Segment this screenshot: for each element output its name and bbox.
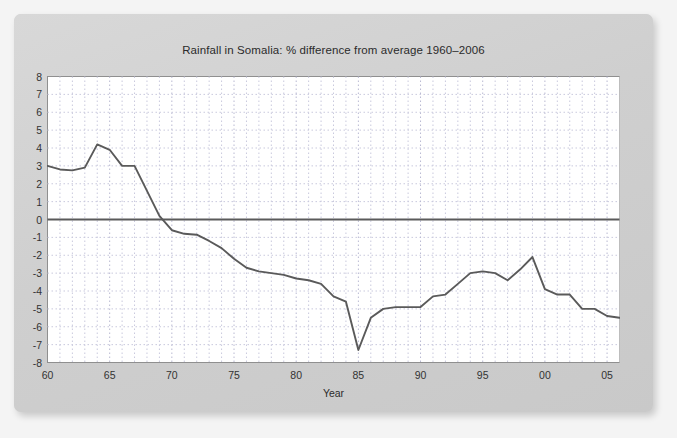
x-tick-label: 70 (166, 369, 178, 381)
page-root: Rainfall in Somalia: % difference from a… (0, 0, 677, 438)
y-tick-label: 0 (36, 214, 42, 226)
x-tick-label: 90 (415, 369, 427, 381)
x-tick-label: 95 (477, 369, 489, 381)
chart-svg (47, 76, 620, 363)
y-tick-label: -6 (33, 321, 42, 333)
x-tick-label: 75 (228, 369, 240, 381)
series-line (48, 144, 620, 350)
x-tick-label: 05 (601, 369, 613, 381)
x-tick-label: 80 (290, 369, 302, 381)
y-tick-label: -8 (33, 357, 42, 369)
chart-title: Rainfall in Somalia: % difference from a… (14, 44, 653, 56)
y-tick-label: 4 (36, 142, 42, 154)
data-series-line (48, 144, 620, 350)
y-tick-label: -1 (33, 231, 42, 243)
x-tick-label: 60 (42, 369, 54, 381)
y-tick-label: 2 (36, 178, 42, 190)
y-tick-label: 5 (36, 124, 42, 136)
y-tick-label: -5 (33, 303, 42, 315)
plot-wrapper: 876543210-1-2-3-4-5-6-7-8 60657075808590… (47, 76, 620, 363)
x-tick-label: 65 (104, 369, 116, 381)
y-tick-label: 3 (36, 160, 42, 172)
y-tick-label: 7 (36, 88, 42, 100)
y-tick-label: 1 (36, 196, 42, 208)
y-tick-label: -3 (33, 267, 42, 279)
y-tick-label: 6 (36, 106, 42, 118)
y-tick-label: -4 (33, 285, 42, 297)
x-tick-label: 00 (539, 369, 551, 381)
y-tick-label: 8 (36, 71, 42, 83)
x-axis-title: Year (47, 387, 620, 399)
chart-card: Rainfall in Somalia: % difference from a… (14, 14, 653, 412)
y-tick-label: -2 (33, 249, 42, 261)
x-tick-label: 85 (353, 369, 365, 381)
y-tick-label: -7 (33, 339, 42, 351)
